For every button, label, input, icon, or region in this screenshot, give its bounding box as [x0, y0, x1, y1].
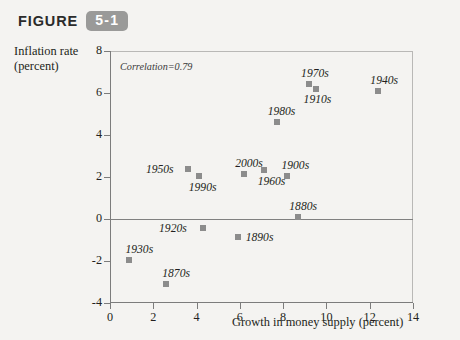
y-axis-tick — [104, 177, 110, 178]
data-point-label: 1940s — [370, 74, 398, 87]
x-axis-tick-label: 12 — [355, 310, 385, 325]
x-axis-tick-label: 4 — [182, 310, 212, 325]
y-axis-tick-label: -2 — [62, 253, 102, 268]
figure-header: FIGURE 5-1 — [18, 10, 128, 32]
y-axis-title-line2: (percent) — [14, 59, 59, 73]
figure-number-badge: 5-1 — [86, 11, 128, 31]
x-axis-tick-label: 8 — [268, 310, 298, 325]
data-point-label: 1980s — [268, 105, 296, 118]
data-point-label: 1890s — [246, 231, 274, 244]
x-axis-tick — [370, 303, 371, 309]
y-axis-tick — [104, 135, 110, 136]
plot-frame-top — [110, 51, 413, 52]
data-point-label: 1930s — [125, 243, 153, 256]
data-point-marker — [196, 173, 202, 179]
data-point-marker — [200, 225, 206, 231]
x-axis-tick — [413, 303, 414, 309]
data-point-marker — [163, 281, 169, 287]
data-point-label: 1920s — [159, 222, 187, 235]
scatter-plot-area: Correlation=0.79 86420-2-402468101214193… — [110, 51, 413, 303]
x-axis-tick — [110, 303, 111, 309]
x-axis-tick-label: 10 — [311, 310, 341, 325]
y-axis-tick-label: 0 — [62, 211, 102, 226]
data-point-label: 1950s — [146, 163, 174, 176]
data-point-label: 1880s — [289, 200, 317, 213]
x-axis-line — [110, 302, 413, 303]
x-axis-tick — [283, 303, 284, 309]
data-point-marker — [274, 119, 280, 125]
y-axis-tick — [104, 51, 110, 52]
y-axis-tick-label: 4 — [62, 127, 102, 142]
data-point-marker — [185, 166, 191, 172]
x-axis-tick-label: 2 — [138, 310, 168, 325]
data-point-marker — [241, 171, 247, 177]
data-point-label: 1990s — [189, 181, 217, 194]
data-point-marker — [126, 257, 132, 263]
y-axis-tick — [104, 93, 110, 94]
x-axis-tick-label: 0 — [95, 310, 125, 325]
zero-reference-line — [110, 219, 413, 220]
y-axis-tick-label: -4 — [62, 295, 102, 310]
y-axis-tick-label: 6 — [62, 85, 102, 100]
data-point-label: 2000s — [235, 157, 263, 170]
data-point-marker — [261, 167, 267, 173]
x-axis-tick — [240, 303, 241, 309]
x-axis-tick — [326, 303, 327, 309]
data-point-marker — [313, 86, 319, 92]
figure-container: FIGURE 5-1 Inflation rate (percent) Grow… — [0, 0, 460, 340]
data-point-label: 1960s — [258, 175, 286, 188]
data-point-marker — [284, 173, 290, 179]
data-point-label: 1970s — [301, 67, 329, 80]
data-point-label: 1900s — [281, 159, 309, 172]
x-axis-tick-label: 6 — [225, 310, 255, 325]
figure-label: FIGURE — [18, 13, 78, 29]
correlation-annotation: Correlation=0.79 — [120, 61, 192, 72]
data-point-marker — [235, 234, 241, 240]
data-point-label: 1870s — [162, 267, 190, 280]
data-point-marker — [295, 214, 301, 220]
data-point-marker — [375, 88, 381, 94]
x-axis-tick — [153, 303, 154, 309]
x-axis-tick-label: 14 — [398, 310, 428, 325]
y-axis-tick — [104, 261, 110, 262]
data-point-label: 1910s — [304, 93, 332, 106]
y-axis-line — [110, 51, 111, 303]
plot-frame-right — [412, 51, 413, 303]
y-axis-tick-label: 2 — [62, 169, 102, 184]
data-point-marker — [306, 81, 312, 87]
x-axis-tick — [197, 303, 198, 309]
y-axis-tick-label: 8 — [62, 43, 102, 58]
